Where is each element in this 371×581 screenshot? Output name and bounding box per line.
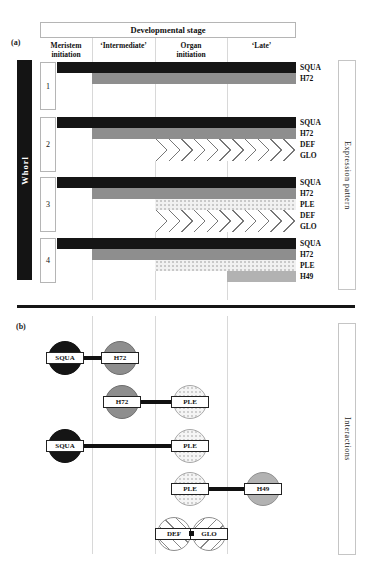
bar-w4-ple [155,260,296,271]
gene-node-h72-1: H72 [103,341,137,375]
bar-w1-h72 [92,73,296,84]
gene-label-w4-h49: H49 [300,271,340,282]
gene-node-glo: GLO [192,517,226,551]
gridline-organ-b [155,316,156,554]
gene-node-h49: H49 [246,472,280,506]
bar-w4-h49 [227,271,296,282]
gene-node-label: SQUA [46,440,84,452]
gene-node-label: PLE [171,483,209,495]
gene-label-w3-h72: H72 [300,188,340,199]
gene-label-w2-squa: SQUA [300,117,340,128]
bar-w3-squa [57,177,296,188]
interaction-5-connector-square [189,531,194,536]
bar-w2-squa [57,117,296,128]
gene-label-w2-glo: GLO [300,150,340,161]
stage-column-intermediate: ‘Intermediate’ [92,38,155,60]
gene-label-w4-ple: PLE [300,260,340,271]
bar-w3-def [155,210,296,221]
bar-w2-def [155,139,296,150]
gene-label-w4-h72: H72 [300,249,340,260]
expression-pattern-label: Expression pattern [343,141,352,210]
bar-w2-glo [155,150,296,161]
developmental-stage-header: Developmental stage [40,22,296,38]
gene-node-label: PLE [171,396,209,408]
bar-w2-h72 [92,128,296,139]
bar-w4-h72 [92,249,296,260]
stage-column-organ-initiation: Organ initiation [155,38,227,60]
gene-node-label: H72 [101,352,139,364]
stage-column-meristem-initiation: Meristem initiation [40,38,92,60]
panel-b-label: (b) [16,322,26,331]
gene-label-w4-squa: SQUA [300,238,340,249]
gene-node-label: SQUA [46,352,84,364]
gene-label-w3-ple: PLE [300,199,340,210]
whorl-axis-bar: Whorl [17,60,32,280]
whorl-2-box: 2 [40,117,56,172]
gene-label-w1-squa: SQUA [300,62,340,73]
gene-label-w3-squa: SQUA [300,177,340,188]
stage-column-late: ‘Late’ [227,38,296,60]
gridline-late-b [227,316,228,554]
gene-node-label: H49 [244,483,282,495]
bar-w1-squa [57,62,296,73]
gene-node-squa-1: SQUA [48,341,82,375]
bar-w3-h72 [92,188,296,199]
gene-label-w2-h72: H72 [300,128,340,139]
gene-node-label: PLE [171,440,209,452]
gene-label-w3-def: DEF [300,210,340,221]
whorl-3-box: 3 [40,177,56,232]
gene-node-h72-2: H72 [105,385,139,419]
gene-node-label: GLO [190,528,228,540]
gene-node-squa-2: SQUA [48,429,82,463]
gene-label-w1-h72: H72 [300,73,340,84]
gene-node-label: H72 [103,396,141,408]
panel-divider [17,305,355,308]
bar-w4-squa [57,238,296,249]
expression-pattern-sidebar: Expression pattern [338,60,356,290]
bar-w3-ple [155,199,296,210]
gene-node-ple-2: PLE [173,429,207,463]
gene-label-w3-glo: GLO [300,221,340,232]
bar-w3-glo [155,221,296,232]
gridline-intermediate-b [92,316,93,554]
figure: (a) Developmental stage Meristem initiat… [0,0,371,581]
gene-node-ple-1: PLE [173,385,207,419]
gene-node-ple-3: PLE [173,472,207,506]
panel-a-label: (a) [11,38,20,47]
interactions-sidebar: Interactions [338,323,356,555]
gene-node-label: DEF [155,528,193,540]
gene-label-w2-def: DEF [300,139,340,150]
gene-node-def: DEF [157,517,191,551]
whorl-1-box: 1 [40,62,56,110]
whorl-axis-label: Whorl [20,156,30,185]
interactions-label: Interactions [343,417,352,461]
whorl-4-box: 4 [40,238,56,283]
